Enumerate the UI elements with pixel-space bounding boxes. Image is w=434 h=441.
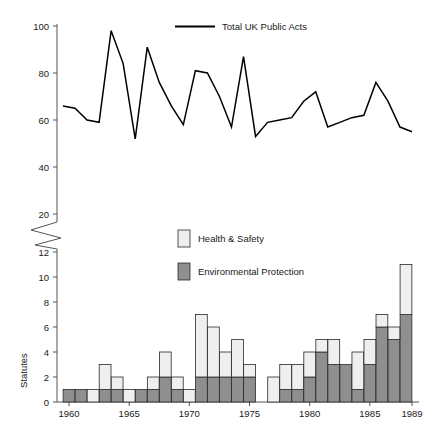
bar-segment-health-safety [123, 390, 135, 403]
bar-segment-environmental-protection [304, 377, 316, 402]
bar-segment-health-safety [388, 327, 400, 340]
bar-segment-health-safety [220, 352, 232, 377]
bar-segment-environmental-protection [376, 327, 388, 402]
bar-segment-health-safety [183, 390, 195, 403]
bottom-y-tick-label: 4 [44, 347, 49, 358]
bar-segment-health-safety [196, 315, 208, 378]
bottom-x-tick-label: 1985 [359, 408, 380, 419]
bottom-x-ticks [69, 402, 412, 406]
bar-segment-environmental-protection [220, 377, 232, 402]
bar-segment-health-safety [400, 265, 412, 315]
bar-segment-environmental-protection [147, 390, 159, 403]
bar-segment-health-safety [364, 340, 376, 365]
bottom-x-tick-label: 1975 [239, 408, 260, 419]
bar-segment-health-safety [304, 352, 316, 377]
top-y-tick-labels: 20406080100 [33, 21, 49, 220]
axis-break-symbol [31, 222, 61, 249]
top-y-tick-label: 60 [38, 115, 49, 126]
bar-segment-environmental-protection [111, 390, 123, 403]
legend-label-total-uk-public-acts: Total UK Public Acts [222, 21, 307, 32]
bar-segment-health-safety [99, 365, 111, 390]
bottom-y-tick-labels: 024681012 [38, 247, 49, 408]
top-y-tick-label: 20 [38, 209, 49, 220]
bar-segment-environmental-protection [340, 365, 352, 403]
top-y-tick-label: 100 [33, 21, 49, 32]
bar-segment-environmental-protection [400, 315, 412, 403]
bottom-y-tick-label: 10 [38, 272, 49, 283]
bar-segment-environmental-protection [196, 377, 208, 402]
chart-svg: 20406080100 Total UK Public Acts 0246810… [0, 0, 434, 441]
bar-segment-health-safety [268, 377, 280, 402]
bottom-y-tick-label: 2 [44, 372, 49, 383]
legend-label-environmental-protection: Environmental Protection [198, 266, 304, 277]
bar-segment-environmental-protection [159, 377, 171, 402]
bar-segment-health-safety [171, 377, 183, 390]
bottom-y-tick-label: 8 [44, 297, 49, 308]
bottom-x-tick-label: 1960 [58, 408, 79, 419]
bar-segment-environmental-protection [99, 390, 111, 403]
top-y-tick-label: 80 [38, 68, 49, 79]
bar-segment-health-safety [208, 327, 220, 377]
bar-segment-environmental-protection [75, 390, 87, 403]
bottom-x-tick-label: 1970 [179, 408, 200, 419]
bar-segment-health-safety [87, 390, 99, 403]
bottom-legend: Health & Safety Environmental Protection [178, 230, 304, 280]
bar-segment-health-safety [328, 340, 340, 365]
bar-segment-environmental-protection [171, 390, 183, 403]
legend-label-health-safety: Health & Safety [198, 233, 264, 244]
bar-segment-environmental-protection [352, 390, 364, 403]
top-legend: Total UK Public Acts [175, 21, 307, 32]
bar-segment-health-safety [111, 377, 123, 390]
bottom-y-tick-label: 6 [44, 322, 49, 333]
top-panel: 20406080100 Total UK Public Acts [31, 21, 412, 250]
bottom-x-tick-label: 1989 [401, 408, 422, 419]
bottom-y-tick-label: 0 [44, 397, 49, 408]
bar-segment-environmental-protection [244, 377, 256, 402]
bottom-x-tick-label: 1980 [299, 408, 320, 419]
bottom-y-ticks [53, 252, 57, 402]
bottom-x-tick-labels: 1960196519701975198019851989 [58, 408, 422, 419]
bar-segment-environmental-protection [328, 365, 340, 403]
bar-segment-environmental-protection [292, 390, 304, 403]
bar-segment-health-safety [232, 340, 244, 378]
top-y-ticks [53, 26, 57, 214]
bar-segment-health-safety [316, 340, 328, 353]
bar-segment-health-safety [159, 352, 171, 377]
bar-segment-health-safety [244, 365, 256, 378]
bottom-x-tick-label: 1965 [119, 408, 140, 419]
bar-segment-environmental-protection [388, 340, 400, 403]
bar-segment-health-safety [147, 377, 159, 390]
bar-segment-environmental-protection [63, 390, 75, 403]
bar-segment-environmental-protection [135, 390, 147, 403]
bar-segment-health-safety [292, 365, 304, 390]
bar-segment-environmental-protection [316, 352, 328, 402]
bar-segment-environmental-protection [364, 365, 376, 403]
bar-segment-health-safety [352, 352, 364, 390]
legend-swatch-health-safety [178, 230, 190, 247]
bar-segment-environmental-protection [208, 377, 220, 402]
bottom-panel: 024681012 1960196519701975198019851989 S… [18, 230, 423, 419]
bar-segment-health-safety [280, 365, 292, 390]
chart-figure: 20406080100 Total UK Public Acts 0246810… [0, 0, 434, 441]
line-series-total-uk-public-acts [63, 31, 412, 139]
top-y-tick-label: 40 [38, 162, 49, 173]
bar-segment-health-safety [376, 315, 388, 328]
bar-segment-environmental-protection [232, 377, 244, 402]
y-axis-title-statutes: Statutes [18, 353, 29, 388]
legend-swatch-environmental-protection [178, 263, 190, 280]
bottom-y-tick-label: 12 [38, 247, 49, 258]
bar-segment-environmental-protection [280, 390, 292, 403]
